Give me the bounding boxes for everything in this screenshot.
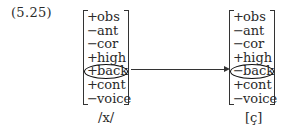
right-segment-label: [ç]: [245, 110, 262, 125]
feature-row: −voice: [87, 92, 131, 106]
feature-row: +cont: [87, 78, 131, 92]
feature-row: −cor: [87, 37, 131, 51]
arrow-line: [131, 69, 227, 70]
feature-row: −voice: [233, 92, 277, 106]
feature-row: −ant: [233, 24, 277, 38]
feature-row-circled: −back: [233, 64, 277, 78]
feature-row: −ant: [87, 24, 131, 38]
left-segment-label: /x/: [98, 110, 114, 125]
left-feature-matrix: +obs −ant −cor +high +back +cont −voice: [83, 10, 129, 105]
feature-row: +high: [87, 51, 131, 65]
feature-row: +obs: [87, 10, 131, 24]
feature-row: +obs: [233, 10, 277, 24]
right-feature-matrix: +obs −ant −cor +high −back +cont −voice: [229, 10, 275, 105]
feature-row: +high: [233, 51, 277, 65]
feature-row: +cont: [233, 78, 277, 92]
feature-row: −cor: [233, 37, 277, 51]
equation-number: (5.25): [11, 5, 52, 20]
feature-row-circled: +back: [87, 64, 131, 78]
